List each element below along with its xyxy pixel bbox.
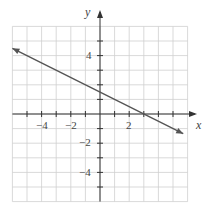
y-tick-label: −4 [79, 167, 91, 178]
x-tick-label: −2 [65, 120, 77, 131]
graph-canvas [0, 0, 210, 210]
y-axis-label: y [85, 6, 90, 18]
x-axis-label: x [196, 119, 201, 131]
y-tick-label: −2 [79, 137, 91, 148]
x-tick-label: −4 [36, 120, 48, 131]
coordinate-plane: y x −4 −2 2 4 −2 −4 [0, 0, 210, 210]
x-tick-label: 2 [126, 120, 132, 131]
y-tick-label: 4 [86, 50, 92, 61]
axes [12, 10, 197, 202]
